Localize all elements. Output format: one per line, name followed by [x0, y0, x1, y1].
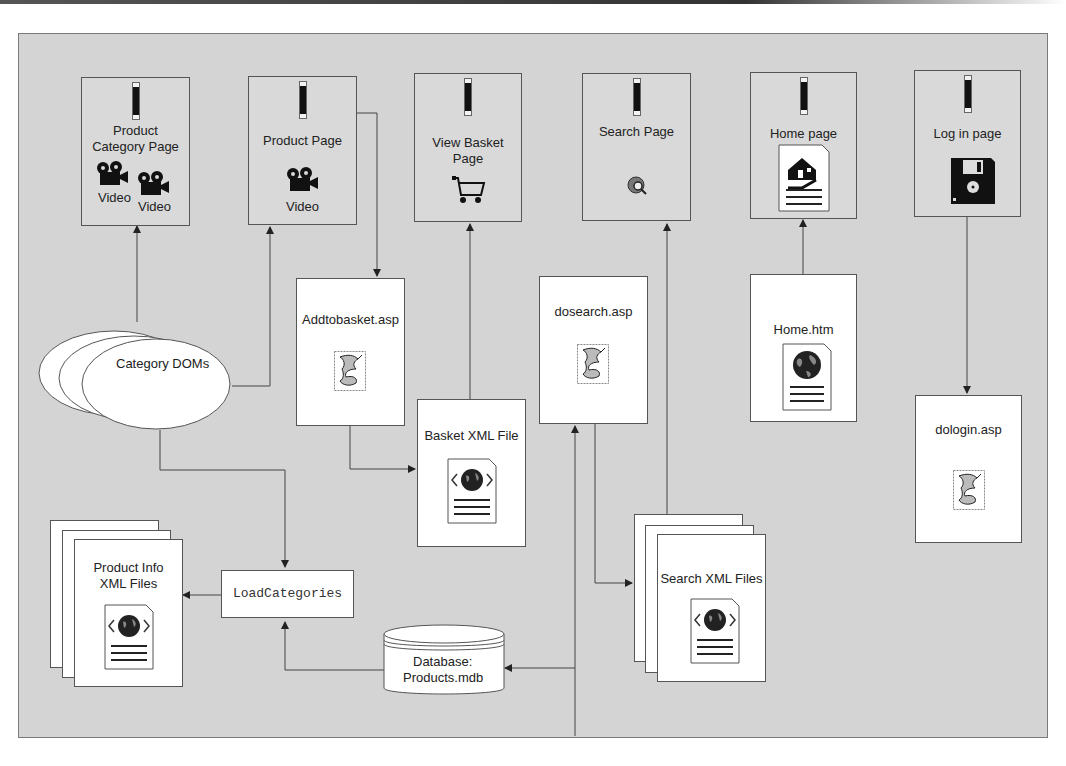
xml-document-icon [447, 458, 497, 524]
dologin-asp-node: dologin.asp [915, 395, 1022, 543]
node-label: Product Info [75, 560, 182, 576]
load-categories-node: LoadCategories [221, 570, 354, 618]
search-icon [626, 175, 650, 199]
category-doms-node [36, 316, 236, 436]
home-htm-node: Home.htm [750, 274, 857, 422]
product-info-xml-files-node: Product Info XML Files [74, 539, 183, 687]
search-xml-files-node: Search XML Files [657, 534, 766, 682]
view-basket-page-node: View Basket Page [414, 73, 522, 222]
shopping-cart-icon [451, 175, 487, 205]
addtobasket-asp-node: Addtobasket.asp [296, 278, 405, 426]
node-label: Product Page [249, 133, 356, 149]
search-page-node: Search Page [582, 73, 691, 221]
node-label: dologin.asp [916, 422, 1021, 438]
xml-document-icon [690, 598, 740, 664]
node-label: LoadCategories [222, 586, 353, 602]
video-caption: Video [138, 199, 171, 214]
xml-document-icon [104, 604, 154, 670]
node-label: Category Page [82, 139, 189, 155]
film-projector-icon [137, 171, 173, 197]
node-label: Basket XML File [418, 428, 525, 444]
film-projector-icon [286, 167, 322, 193]
node-label: dosearch.asp [540, 304, 647, 320]
product-page-node: Product Page Video [248, 76, 357, 225]
basket-xml-file-node: Basket XML File [417, 399, 526, 547]
node-label: Addtobasket.asp [297, 312, 404, 328]
scrollbar-icon [800, 77, 808, 115]
script-icon [334, 351, 366, 391]
node-label: Product [82, 123, 189, 139]
node-label: View Basket [415, 135, 521, 151]
script-icon [953, 470, 985, 510]
film-projector-icon [96, 161, 132, 187]
product-category-page-node: Product Category Page Video Video [81, 77, 190, 226]
script-icon [577, 344, 609, 384]
scrollbar-icon [299, 81, 307, 119]
scrollbar-icon [964, 75, 972, 113]
node-label: Home.htm [751, 322, 856, 338]
node-label: Log in page [915, 126, 1020, 142]
video-caption: Video [98, 190, 131, 205]
login-page-node: Log in page [914, 70, 1021, 217]
node-label: Search Page [583, 124, 690, 140]
web-document-icon [782, 343, 832, 411]
node-label: Search XML Files [658, 571, 765, 587]
node-label: XML Files [75, 576, 182, 592]
scrollbar-icon [464, 78, 472, 116]
scrollbar-icon [132, 82, 140, 120]
database-label: Products.mdb [403, 670, 483, 685]
floppy-disk-icon [951, 158, 995, 204]
database-label: Database: [413, 654, 472, 669]
dosearch-asp-node: dosearch.asp [539, 276, 648, 424]
node-label: Home page [751, 126, 856, 142]
home-document-icon [778, 144, 830, 212]
video-caption: Video [249, 199, 356, 215]
node-label: Page [415, 151, 521, 167]
category-doms-label: Category DOMs [116, 356, 209, 371]
home-page-node: Home page [750, 72, 857, 219]
scrollbar-icon [633, 78, 641, 116]
